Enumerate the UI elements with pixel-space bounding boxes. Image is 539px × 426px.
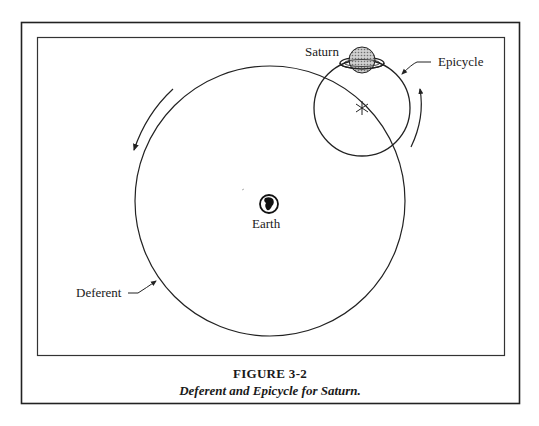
epicycle-label: Epicycle bbox=[438, 54, 484, 69]
deferent-direction-arrow bbox=[134, 89, 173, 150]
figure-number: FIGURE 3-2 bbox=[233, 366, 307, 381]
earth-globe-icon bbox=[260, 195, 278, 213]
epicycle-leader-line bbox=[402, 62, 431, 74]
saturn-planet-icon bbox=[340, 47, 384, 73]
figure-canvas: Saturn Epicycle Earth Deferent FIGURE 3-… bbox=[0, 0, 539, 426]
stray-mark bbox=[242, 189, 244, 190]
earth-label: Earth bbox=[252, 216, 281, 231]
deferent-label: Deferent bbox=[76, 285, 122, 300]
epicycle-center-star-icon bbox=[356, 101, 368, 115]
saturn-label: Saturn bbox=[305, 44, 339, 59]
figure-caption: Deferent and Epicycle for Saturn. bbox=[178, 383, 361, 398]
epicycle-direction-arrow bbox=[411, 89, 421, 147]
deferent-leader-line bbox=[128, 281, 156, 293]
